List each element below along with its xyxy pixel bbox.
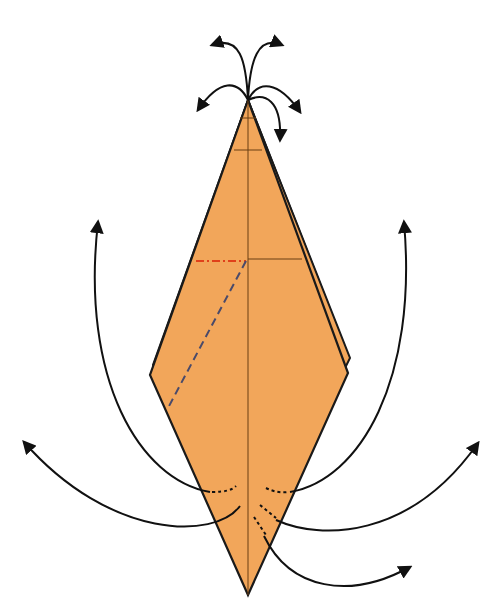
diagram-canvas (0, 0, 492, 616)
origami-diagram (0, 0, 492, 616)
paper-kite (150, 100, 348, 595)
